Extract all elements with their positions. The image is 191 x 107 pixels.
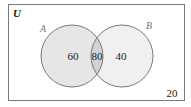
set-b-label: B — [146, 20, 152, 31]
set-a-only-value: 60 — [68, 50, 80, 62]
intersection-value: 80 — [92, 50, 104, 62]
venn-diagram: U A B 60 80 40 20 — [0, 0, 191, 107]
set-b-only-value: 40 — [116, 50, 128, 62]
universe-label: U — [13, 7, 22, 19]
set-a-label: A — [39, 23, 47, 34]
outside-value: 20 — [167, 87, 179, 99]
